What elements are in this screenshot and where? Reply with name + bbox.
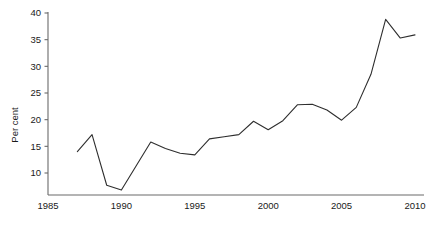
y-axis-title: Per cent — [9, 107, 20, 143]
x-tick-label: 2005 — [331, 200, 352, 211]
y-tick-label: 30 — [30, 61, 41, 72]
x-tick-label: 1995 — [184, 200, 205, 211]
x-tick-label: 2010 — [404, 200, 425, 211]
x-axis-group: 198519901995200020052010 — [37, 195, 425, 211]
y-tick-label: 15 — [30, 141, 41, 152]
y-tick-label: 10 — [30, 167, 41, 178]
y-axis-tick-labels: 10152025303540 — [30, 7, 41, 178]
y-tick-label: 25 — [30, 87, 41, 98]
chart-canvas: 10152025303540 198519901995200020052010 … — [0, 0, 433, 226]
x-axis-tick-labels: 198519901995200020052010 — [37, 200, 425, 211]
y-tick-label: 35 — [30, 34, 41, 45]
x-tick-label: 1990 — [111, 200, 132, 211]
data-series-line — [77, 19, 415, 190]
y-tick-label: 20 — [30, 114, 41, 125]
y-tick-label: 40 — [30, 7, 41, 18]
x-tick-label: 1985 — [37, 200, 58, 211]
line-chart: 10152025303540 198519901995200020052010 … — [0, 0, 433, 226]
y-axis-group: 10152025303540 — [30, 7, 48, 195]
x-tick-label: 2000 — [258, 200, 279, 211]
